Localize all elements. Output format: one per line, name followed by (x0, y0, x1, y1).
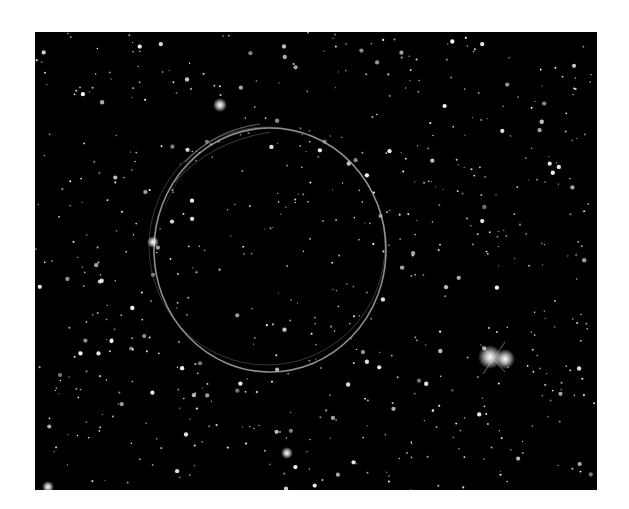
starfield-canvas (35, 32, 597, 490)
remnant-ring (149, 124, 386, 372)
starfield-photo (35, 32, 597, 490)
stars (35, 32, 595, 490)
